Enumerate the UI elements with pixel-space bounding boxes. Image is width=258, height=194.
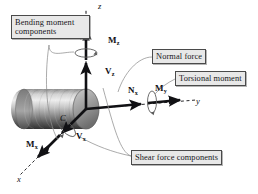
vector-label-Mx: Mx <box>26 139 38 149</box>
vector-label-Vz: Vz <box>105 66 114 76</box>
vector-label-Vx-sub: x <box>83 135 86 142</box>
vector-label-My-base: M <box>155 83 164 93</box>
vector-label-Nx: Nx <box>128 85 138 95</box>
vector-label-Mx-base: M <box>26 139 35 149</box>
vector-My <box>148 91 181 115</box>
vector-label-Mz: Mz <box>108 35 119 45</box>
vector-label-Mz-sub: z <box>117 39 120 46</box>
callout-torsional-moment: Torsional moment <box>175 71 246 86</box>
vector-label-Vz-base: V <box>105 66 112 76</box>
vector-label-Nx-sub: x <box>135 89 138 96</box>
vector-label-Nx-base: N <box>128 85 135 95</box>
callout-bending-moment-components: Bending moment components <box>11 15 90 39</box>
vector-label-Vx-base: V <box>76 131 83 141</box>
axis-label-x: x <box>17 174 21 184</box>
vector-label-My-sub: y <box>164 87 167 94</box>
callout-shear-force-components: Shear force components <box>131 150 222 165</box>
axis-label-y: y <box>196 96 200 106</box>
vector-label-Mx-sub: x <box>35 143 38 150</box>
vector-label-My: My <box>155 83 167 93</box>
vector-label-Vx: Vx <box>76 131 86 141</box>
vector-label-Vz-sub: z <box>112 70 115 77</box>
vector-label-Mz-base: M <box>108 35 117 45</box>
centroid-label: C <box>60 113 66 123</box>
axis-label-z: z <box>98 1 101 11</box>
callout-normal-force: Normal force <box>152 49 206 64</box>
